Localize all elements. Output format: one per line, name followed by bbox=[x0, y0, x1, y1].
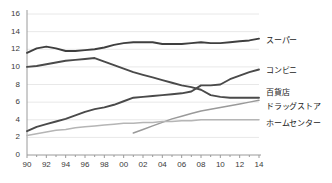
y-tick-label: 16 bbox=[4, 10, 20, 18]
x-tick-label: 94 bbox=[57, 161, 75, 169]
x-tick-label: 14 bbox=[250, 161, 268, 169]
y-tick-label: 8 bbox=[4, 81, 20, 89]
y-tick-label: 12 bbox=[4, 45, 20, 53]
series-line-0 bbox=[27, 39, 259, 53]
x-tick-label: 00 bbox=[115, 161, 133, 169]
x-tick-label: 06 bbox=[173, 161, 191, 169]
y-tick-label: 4 bbox=[4, 116, 20, 124]
legend-label-4: ホームセンター bbox=[266, 119, 321, 128]
series-lines bbox=[27, 39, 259, 136]
y-tick-label: 6 bbox=[4, 98, 20, 106]
y-tick-label: 0 bbox=[4, 151, 20, 159]
x-tick-label: 92 bbox=[37, 161, 55, 169]
legend-label-3: ドラッグストア bbox=[266, 102, 321, 111]
legend-label-0: スーパー bbox=[266, 36, 297, 45]
x-tick-label: 04 bbox=[153, 161, 171, 169]
x-tick-label: 98 bbox=[95, 161, 113, 169]
legend-label-2: 百貨店 bbox=[266, 88, 289, 97]
x-tick-label: 90 bbox=[18, 161, 36, 169]
y-tick-label: 14 bbox=[4, 28, 20, 36]
series-line-3 bbox=[133, 100, 259, 133]
x-tick-label: 10 bbox=[211, 161, 229, 169]
series-line-2 bbox=[27, 58, 259, 98]
y-tick-label: 10 bbox=[4, 63, 20, 71]
x-tick-label: 12 bbox=[231, 161, 249, 169]
legend-label-1: コンビニ bbox=[266, 66, 297, 75]
x-tick-label: 08 bbox=[192, 161, 210, 169]
series-line-4 bbox=[27, 120, 259, 136]
x-tick-label: 96 bbox=[76, 161, 94, 169]
y-tick-label: 2 bbox=[4, 133, 20, 141]
line-chart: 1614121086420 90929496980002040608101214… bbox=[0, 0, 332, 183]
x-tick-label: 02 bbox=[134, 161, 152, 169]
